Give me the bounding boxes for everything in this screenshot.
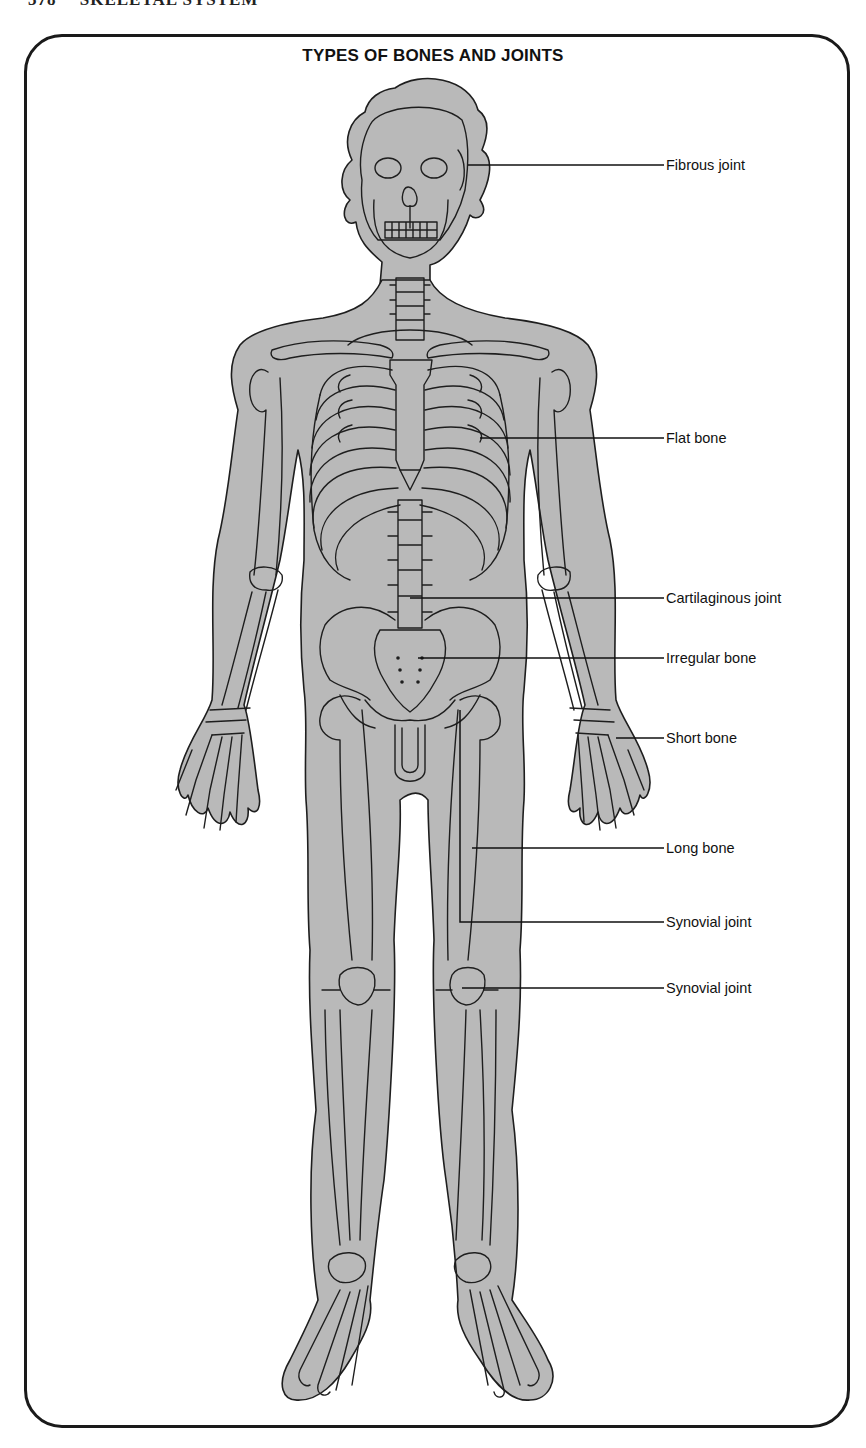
- label-fibrous-joint: Fibrous joint: [666, 156, 745, 174]
- head-silhouette: [342, 79, 490, 285]
- label-synovial-joint-knee: Synovial joint: [666, 979, 751, 997]
- label-irregular-bone: Irregular bone: [666, 649, 756, 667]
- label-short-bone: Short bone: [666, 729, 737, 747]
- label-flat-bone: Flat bone: [666, 429, 726, 447]
- label-cartilaginous-joint: Cartilaginous joint: [666, 589, 781, 607]
- body-silhouette: [178, 280, 650, 1400]
- skeleton-illustration: [0, 0, 866, 1448]
- label-synovial-joint-hip: Synovial joint: [666, 913, 751, 931]
- label-long-bone: Long bone: [666, 839, 735, 857]
